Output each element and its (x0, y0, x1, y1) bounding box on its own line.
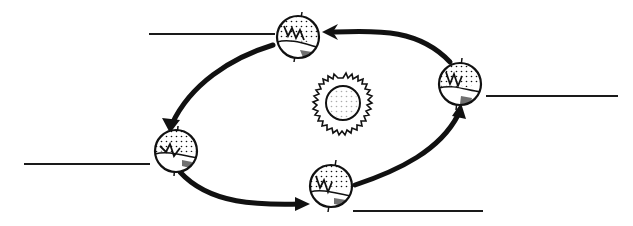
earth-bottom-icon (310, 160, 352, 212)
blank-line-bottom[interactable] (353, 210, 483, 212)
arrow-bottom-to-right (355, 115, 458, 185)
sun-icon (313, 73, 372, 135)
arrow-right-to-top (335, 31, 450, 62)
blank-line-right[interactable] (486, 95, 618, 97)
earth-top-icon (277, 12, 320, 62)
earth-left-icon (155, 126, 197, 176)
arrow-left-to-bottom (180, 172, 300, 204)
orbit-diagram (0, 0, 633, 226)
earth-right-icon (439, 58, 481, 110)
arrow-top-to-left (172, 45, 273, 124)
blank-line-top-left[interactable] (149, 33, 275, 35)
blank-line-left[interactable] (24, 163, 150, 165)
arrowhead-bottom (295, 197, 310, 211)
